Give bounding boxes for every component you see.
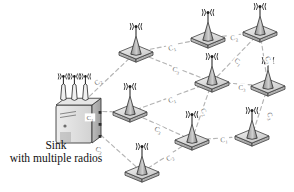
network-diagram-figure: C2C1C3C1C2C3C1C2C3C1C2C3C1C3C2 Sink with… [0, 0, 294, 192]
mesh-router-node [235, 107, 269, 146]
mesh-router-node [195, 53, 229, 92]
link-capacity-label: C2 [91, 75, 105, 89]
sink-radio-port-2 [99, 123, 102, 126]
link-capacity-label: C1 [85, 113, 95, 122]
sink-antenna-icon [69, 74, 79, 101]
mesh-router-node [113, 83, 147, 122]
node-body-cone [187, 124, 197, 143]
link-capacity-label: C2 [228, 33, 240, 44]
node-body-cone [263, 70, 273, 89]
sink-radio-port-3 [99, 135, 102, 138]
link-capacity-label: C1 [231, 55, 245, 69]
link-capacity-label: C3 [264, 110, 276, 123]
mesh-router-node [125, 143, 159, 182]
link-capacity-label: C1 [166, 94, 179, 106]
node-layer [113, 3, 285, 182]
node-body-cone [125, 96, 135, 115]
sink-radio-port-1 [99, 111, 102, 114]
sink-caption-line-1: Sink [0, 139, 112, 152]
link-capacity-label: C3 [151, 124, 164, 137]
link-capacity-label: C1 [218, 135, 229, 145]
node-body-cone [131, 36, 141, 55]
link-capacity-label: C3 [236, 83, 247, 93]
link-capacity-label: C1 [166, 42, 179, 54]
node-body-cone [207, 66, 217, 85]
node-body-cone [137, 156, 147, 175]
link-capacity-label: C2 [163, 151, 177, 164]
link-capacity-label: C2 [197, 105, 210, 119]
mesh-router-node [119, 23, 153, 62]
mesh-router-node [191, 9, 225, 48]
node-body-cone [255, 16, 265, 35]
node-body-cone [203, 22, 213, 41]
sink-caption-line-2: with multiple radios [0, 152, 112, 165]
mesh-router-node [243, 3, 277, 42]
sink-antenna-icon [80, 74, 90, 101]
sink-antenna-icon [58, 74, 68, 101]
